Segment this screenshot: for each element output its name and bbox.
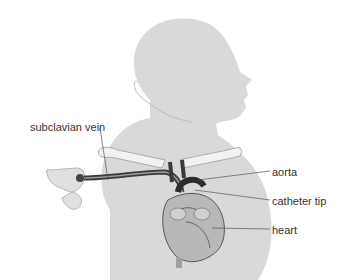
label-catheter-tip: catheter tip (272, 195, 326, 207)
diagram-canvas: subclavian vein aorta catheter tip heart (0, 0, 340, 280)
label-aorta: aorta (272, 166, 297, 178)
carotid-vessel (182, 160, 184, 178)
anatomy-illustration (0, 0, 340, 280)
inferior-vena-cava (176, 258, 182, 268)
thumb (62, 192, 82, 209)
right-atrium (170, 208, 186, 220)
left-atrium (194, 208, 210, 220)
label-heart: heart (272, 224, 297, 236)
catheter-hub (76, 174, 84, 182)
jugular-vessel (170, 162, 172, 182)
label-subclavian-vein: subclavian vein (30, 121, 105, 133)
heart-shape (163, 193, 225, 261)
